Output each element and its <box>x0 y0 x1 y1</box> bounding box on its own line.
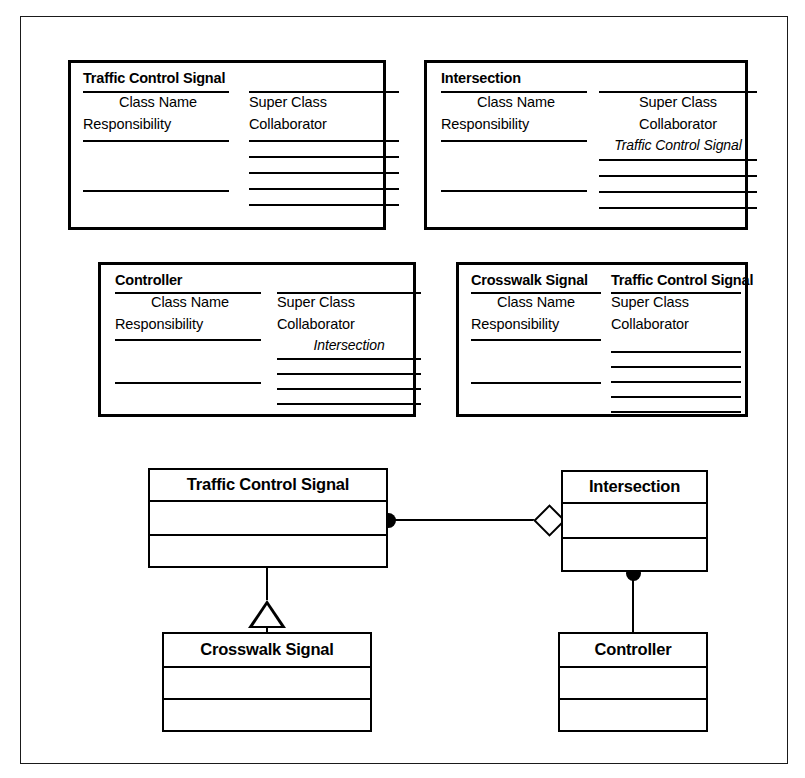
uml-compartment-divider <box>150 534 386 536</box>
crc-label-collaborator: Collaborator <box>599 116 757 132</box>
crc-label-class-name: Class Name <box>441 94 591 110</box>
uml-class-name: Crosswalk Signal <box>164 640 370 659</box>
rule <box>599 191 757 193</box>
uml-class-name: Controller <box>560 640 706 659</box>
crc-label-collaborator: Collaborator <box>249 116 399 132</box>
rule <box>611 366 741 368</box>
uml-class-traffic-control-signal[interactable]: Traffic Control Signal <box>148 468 388 568</box>
crc-card-crosswalk-signal: Crosswalk Signal Traffic Control Signal … <box>456 262 748 417</box>
uml-compartment-divider <box>164 698 370 700</box>
rule <box>249 140 399 142</box>
rule <box>83 190 229 192</box>
crc-label-super-class: Super Class <box>611 294 741 310</box>
rule <box>599 175 757 177</box>
rule <box>441 91 587 93</box>
crc-right-column: Super Class Collaborator <box>611 265 741 414</box>
crc-label-responsibility: Responsibility <box>441 116 591 132</box>
rule <box>599 91 757 93</box>
rule <box>471 339 601 341</box>
rule <box>277 388 421 390</box>
crc-collaborator-entry: Traffic Control Signal <box>599 137 757 153</box>
rule <box>611 396 741 398</box>
rule <box>611 381 741 383</box>
uml-compartment-divider <box>164 666 370 668</box>
uml-compartment-divider <box>563 537 706 539</box>
uml-compartment-divider <box>560 698 706 700</box>
uml-class-intersection[interactable]: Intersection <box>561 470 708 572</box>
crc-label-class-name: Class Name <box>471 294 601 310</box>
crc-label-class-name: Class Name <box>115 294 265 310</box>
uml-class-name: Traffic Control Signal <box>150 475 386 494</box>
uml-class-name: Intersection <box>563 477 706 496</box>
rule <box>599 159 757 161</box>
rule <box>249 91 399 93</box>
rule <box>471 382 601 384</box>
crc-left-column: Class Name Responsibility <box>441 63 591 227</box>
rule <box>277 403 421 405</box>
diagram-page: Traffic Control Signal Class Name Respon… <box>0 0 805 778</box>
generalization-line-upper <box>266 568 268 600</box>
crc-card-controller: Controller Class Name Responsibility Sup… <box>98 262 416 417</box>
crc-label-responsibility: Responsibility <box>115 316 265 332</box>
crc-label-class-name: Class Name <box>83 94 233 110</box>
uml-compartment-divider <box>563 502 706 504</box>
rule <box>115 382 261 384</box>
rule <box>611 411 741 413</box>
rule <box>611 351 741 353</box>
rule <box>441 190 587 192</box>
crc-left-column: Class Name Responsibility <box>471 265 603 414</box>
crc-card-traffic-control-signal: Traffic Control Signal Class Name Respon… <box>68 60 386 230</box>
rule <box>249 172 399 174</box>
crc-label-collaborator: Collaborator <box>277 316 421 332</box>
crc-left-column: Class Name Responsibility <box>115 265 265 414</box>
rule <box>599 207 757 209</box>
uml-class-crosswalk-signal[interactable]: Crosswalk Signal <box>162 632 372 732</box>
crc-right-column: Super Class Collaborator <box>249 63 399 227</box>
crc-right-column: Super Class Collaborator Intersection <box>277 265 421 414</box>
crc-collaborator-entry: Intersection <box>277 337 421 353</box>
rule <box>441 140 587 142</box>
crc-label-super-class: Super Class <box>599 94 757 110</box>
crc-label-super-class: Super Class <box>277 294 421 310</box>
rule <box>277 358 421 360</box>
rule <box>115 339 261 341</box>
uml-class-controller[interactable]: Controller <box>558 632 708 732</box>
crc-card-intersection: Intersection Class Name Responsibility S… <box>424 60 748 230</box>
rule <box>83 140 229 142</box>
crc-label-super-class: Super Class <box>249 94 399 110</box>
rule <box>83 91 229 93</box>
crc-label-responsibility: Responsibility <box>83 116 233 132</box>
uml-compartment-divider <box>560 666 706 668</box>
rule <box>277 373 421 375</box>
hollow-triangle-adornment-generalization <box>248 600 286 628</box>
uml-compartment-divider <box>150 500 386 502</box>
association-line-intersection-controller <box>632 572 634 634</box>
crc-label-responsibility: Responsibility <box>471 316 601 332</box>
crc-left-column: Class Name Responsibility <box>83 63 233 227</box>
crc-right-column: Super Class Collaborator Traffic Control… <box>599 63 759 227</box>
rule <box>249 204 399 206</box>
rule <box>249 156 399 158</box>
rule <box>249 188 399 190</box>
crc-label-collaborator: Collaborator <box>611 316 741 332</box>
